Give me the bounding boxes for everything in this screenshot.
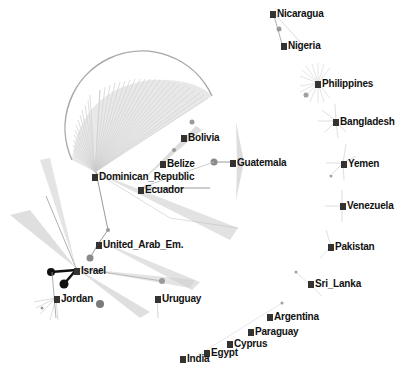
node-square-icon [341,161,347,168]
node-jordan[interactable]: Jordan [54,293,93,305]
node-bolivia[interactable]: Bolivia [181,132,219,144]
node-label: Guatemala [237,157,286,169]
node-square-icon [74,268,80,275]
node-belize[interactable]: Belize [160,158,195,170]
node-square-icon [308,281,314,288]
node-paraguay[interactable]: Paraguay [248,326,298,338]
node-philippines[interactable]: Philippines [315,78,373,90]
node-label: Pakistan [335,241,375,253]
node-square-icon [138,187,144,194]
node-square-icon [230,160,236,167]
node-label: India [187,353,209,365]
node-sri-lanka[interactable]: Sri_Lanka [308,278,361,290]
node-square-icon [270,11,276,18]
node-label: Cyprus [234,338,267,350]
network-graph-canvas[interactable]: Nicaragua Nigeria Philippines Bangladesh… [0,0,404,372]
node-square-icon [96,242,102,249]
node-label: Dominican_Republic [99,171,194,183]
node-square-icon [155,296,161,303]
node-square-icon [160,161,166,168]
node-label: Uruguay [162,293,201,305]
node-dominican-republic[interactable]: Dominican_Republic [92,171,194,183]
node-nigeria[interactable]: Nigeria [281,40,321,52]
node-india[interactable]: India [180,353,209,365]
node-square-icon [180,356,186,363]
node-argentina[interactable]: Argentina [267,311,319,323]
node-square-icon [333,119,339,126]
node-label: Ecuador [145,184,184,196]
node-uruguay[interactable]: Uruguay [155,293,201,305]
node-square-icon [328,244,334,251]
node-label: Yemen [348,158,379,170]
node-label: Nigeria [288,40,321,52]
node-square-icon [281,43,287,50]
node-square-icon [267,314,273,321]
node-united-arab-em[interactable]: United_Arab_Em. [96,239,183,251]
node-square-icon [340,203,346,210]
node-label: United_Arab_Em. [103,239,183,251]
node-venezuela[interactable]: Venezuela [340,200,394,212]
node-square-icon [92,174,98,181]
node-guatemala[interactable]: Guatemala [230,157,286,169]
node-label: Israel [81,265,106,277]
node-square-icon [181,135,187,142]
node-pakistan[interactable]: Pakistan [328,241,375,253]
node-label: Bangladesh [340,116,395,128]
node-israel[interactable]: Israel [74,265,106,277]
node-label: Venezuela [347,200,394,212]
node-label: Belize [167,158,195,170]
node-label: Nicaragua [277,8,324,20]
node-label: Argentina [274,311,319,323]
graph-edges [0,0,404,372]
node-label: Paraguay [255,326,298,338]
node-bangladesh[interactable]: Bangladesh [333,116,395,128]
node-label: Bolivia [188,132,219,144]
node-yemen[interactable]: Yemen [341,158,379,170]
node-label: Philippines [322,78,373,90]
node-ecuador[interactable]: Ecuador [138,184,184,196]
node-square-icon [248,329,254,336]
node-label: Jordan [61,293,93,305]
node-label: Sri_Lanka [315,278,361,290]
node-label: Egypt [211,347,238,359]
node-nicaragua[interactable]: Nicaragua [270,8,324,20]
node-square-icon [54,296,60,303]
node-square-icon [315,81,321,88]
